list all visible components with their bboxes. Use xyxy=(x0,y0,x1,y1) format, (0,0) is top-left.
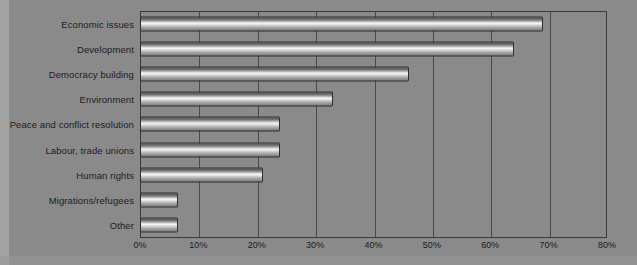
bar-row: Other xyxy=(0,213,637,238)
chart-figure: Economic issuesDevelopmentDemocracy buil… xyxy=(0,0,637,265)
bar-rows: Economic issuesDevelopmentDemocracy buil… xyxy=(0,11,637,238)
bar-wrapper xyxy=(140,218,178,233)
bar-wrapper xyxy=(140,67,409,82)
bar-row: Economic issues xyxy=(0,11,637,36)
bar-wrapper xyxy=(140,142,280,157)
bar-row: Human rights xyxy=(0,162,637,187)
x-tick-label: 20% xyxy=(248,240,266,250)
x-tick-label: 70% xyxy=(540,240,558,250)
category-label: Other xyxy=(110,220,134,231)
bar-row: Environment xyxy=(0,87,637,112)
bar xyxy=(140,117,280,132)
x-tick-label: 10% xyxy=(189,240,207,250)
bar xyxy=(140,41,514,56)
bar-wrapper xyxy=(140,41,514,56)
x-tick-label: 60% xyxy=(481,240,499,250)
bar xyxy=(140,167,263,182)
bar xyxy=(140,218,178,233)
x-tick-label: 40% xyxy=(364,240,382,250)
bar-row: Labour, trade unions xyxy=(0,137,637,162)
category-label: Economic issues xyxy=(61,18,134,29)
x-axis-tick-labels: 0%10%20%30%40%50%60%70%80% xyxy=(0,240,637,258)
bar xyxy=(140,16,543,31)
bar-row: Development xyxy=(0,36,637,61)
bar-row: Democracy building xyxy=(0,61,637,86)
bar xyxy=(140,193,178,208)
category-label: Environment xyxy=(80,94,134,105)
bar-wrapper xyxy=(140,167,263,182)
category-label: Peace and conflict resolution xyxy=(10,119,134,130)
bar-wrapper xyxy=(140,193,178,208)
bar xyxy=(140,142,280,157)
bar-wrapper xyxy=(140,92,333,107)
category-label: Migrations/refugees xyxy=(49,195,134,206)
x-tick-label: 0% xyxy=(133,240,146,250)
bar-row: Migrations/refugees xyxy=(0,188,637,213)
category-label: Labour, trade unions xyxy=(45,144,134,155)
category-label: Development xyxy=(77,43,134,54)
bar xyxy=(140,92,333,107)
x-tick-label: 30% xyxy=(306,240,324,250)
category-label: Human rights xyxy=(76,169,134,180)
bar xyxy=(140,67,409,82)
bar-wrapper xyxy=(140,16,543,31)
bar-row: Peace and conflict resolution xyxy=(0,112,637,137)
x-tick-label: 50% xyxy=(423,240,441,250)
x-tick-label: 80% xyxy=(598,240,616,250)
bar-wrapper xyxy=(140,117,280,132)
category-label: Democracy building xyxy=(49,69,134,80)
